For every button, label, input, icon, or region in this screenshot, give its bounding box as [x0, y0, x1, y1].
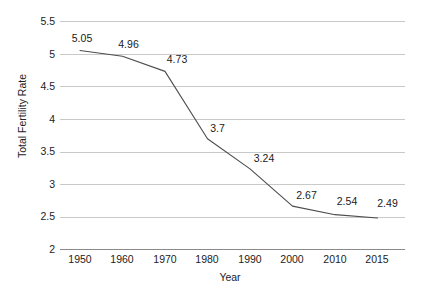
x-tick-label: 1970 — [153, 253, 176, 265]
x-tick-label: 2010 — [323, 253, 346, 265]
series-path — [80, 50, 378, 218]
plot-area: 5.054.964.733.73.242.672.542.49 — [60, 21, 405, 250]
x-tick-label: 1950 — [68, 253, 91, 265]
x-tick-label: 2015 — [365, 253, 388, 265]
x-tick-label: 1990 — [238, 253, 261, 265]
series-line — [60, 21, 405, 250]
data-point-label: 4.73 — [167, 54, 187, 65]
x-tick-label: 2000 — [280, 253, 303, 265]
data-point-label: 5.05 — [72, 33, 92, 44]
x-axis-title: Year — [0, 271, 428, 283]
data-point-label: 2.67 — [296, 190, 316, 201]
x-tick-label: 1960 — [110, 253, 133, 265]
data-point-label: 2.49 — [377, 198, 397, 209]
data-point-label: 3.7 — [210, 123, 225, 134]
y-axis-title: Total Fertility Rate — [16, 51, 28, 181]
y-tick-label: 5.5 — [40, 16, 55, 27]
y-tick-label: 2 — [49, 244, 55, 255]
y-tick-label: 3.5 — [40, 146, 55, 157]
fertility-rate-line-chart: 5.5 5 4.5 4 3.5 3 2.5 2 Total Fertility … — [0, 0, 428, 296]
x-tick-label: 1980 — [195, 253, 218, 265]
y-tick-label: 5 — [49, 49, 55, 60]
y-tick-label: 2.5 — [40, 211, 55, 222]
data-point-label: 3.24 — [254, 153, 274, 164]
y-tick-label: 4.5 — [40, 81, 55, 92]
y-tick-label: 3 — [49, 179, 55, 190]
y-tick-label: 4 — [49, 114, 55, 125]
data-point-label: 4.96 — [118, 39, 138, 50]
data-point-label: 2.54 — [337, 196, 357, 207]
x-axis-title-text: Year — [219, 271, 240, 283]
